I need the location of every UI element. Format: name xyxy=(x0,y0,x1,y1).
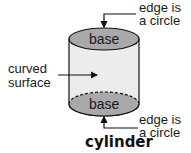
top-edge-label-line2: a circle xyxy=(139,14,180,27)
bottom-base-label: base xyxy=(89,98,119,111)
bottom-edge-pointer xyxy=(104,117,138,128)
curved-label-line2: surface xyxy=(8,76,51,89)
curved-label-line1: curved xyxy=(8,62,47,75)
top-edge-pointer xyxy=(104,14,136,27)
top-base-label: base xyxy=(89,33,119,46)
diagram-title: cylinder xyxy=(85,133,153,151)
